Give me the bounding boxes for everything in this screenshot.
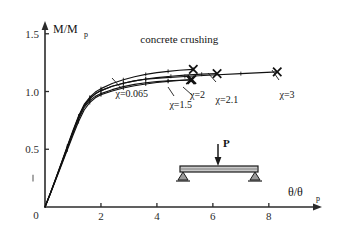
origin-tick-label: 0	[33, 209, 39, 221]
x-axis-title-subscript: p	[316, 194, 320, 203]
curve-label-3: χ=3	[278, 89, 294, 100]
beam-load-label: P	[223, 137, 230, 149]
curve-label-0-065: χ=0.065	[114, 88, 148, 99]
x-tick-label: 4	[154, 210, 160, 222]
y-tick-label: 1.5	[25, 28, 39, 40]
x-axis-title-main: θ/θ	[288, 185, 303, 199]
annotation-concrete-crushing: concrete crushing	[140, 33, 218, 45]
curve-label-1-5: χ=1.5	[168, 99, 192, 110]
y-tick-label: 0.5	[25, 143, 39, 155]
y-axis-title-subscript: p	[84, 30, 88, 39]
moment-rotation-chart: 2468 0.51.01.5 0 M/M p θ/θ p concrete cr…	[0, 0, 340, 238]
curve-label-2-1: χ=2.1	[215, 94, 239, 105]
x-tick-label: 2	[98, 210, 104, 222]
curve-label-2: χ=2	[189, 89, 205, 100]
y-axis-title-main: M/M	[53, 22, 78, 36]
y-tick-label: 1.0	[25, 86, 39, 98]
x-tick-label: 6	[210, 210, 216, 222]
chart-canvas: 2468 0.51.01.5 0 M/M p θ/θ p concrete cr…	[0, 0, 340, 238]
x-tick-label: 8	[266, 210, 272, 222]
